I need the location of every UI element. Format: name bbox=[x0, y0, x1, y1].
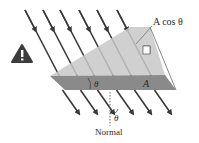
field-line-arrowhead bbox=[43, 10, 53, 30]
right-angle-box bbox=[143, 46, 150, 54]
label-area: A bbox=[142, 78, 150, 89]
label-angle-top: θ bbox=[94, 79, 99, 89]
field-line-lower bbox=[80, 90, 96, 113]
field-line-lower bbox=[154, 90, 170, 113]
warning-triangle-icon bbox=[12, 45, 32, 62]
field-line-arrowhead bbox=[25, 10, 35, 30]
field-line-arrowhead bbox=[60, 10, 70, 30]
label-angle-normal: θ bbox=[114, 113, 119, 123]
label-projected-area: A cos θ bbox=[153, 16, 183, 27]
flat-plane bbox=[50, 75, 176, 90]
field-lines-lower bbox=[62, 90, 170, 113]
flux-diagram: A cos θ A θ θ Normal bbox=[0, 0, 199, 143]
field-line-arrowhead bbox=[117, 10, 127, 30]
field-line-lower bbox=[116, 90, 132, 113]
field-line-lower bbox=[62, 90, 78, 113]
field-line-arrowhead bbox=[97, 10, 107, 30]
field-line-lower bbox=[134, 90, 150, 113]
field-line-arrowhead bbox=[79, 10, 89, 30]
field-line-lower bbox=[97, 90, 113, 113]
label-normal: Normal bbox=[95, 127, 123, 137]
